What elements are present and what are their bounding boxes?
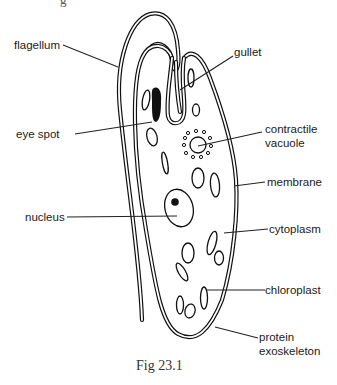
label-protein-exoskeleton-1: protein xyxy=(259,331,294,343)
euglena-diagram: g xyxy=(0,0,337,385)
label-contractile-vacuole-1: contractile xyxy=(265,123,317,135)
label-membrane: membrane xyxy=(267,176,322,188)
figure-caption: Fig 23.1 xyxy=(136,358,183,373)
label-protein-exoskeleton-2: exoskeleton xyxy=(259,345,320,357)
label-eye-spot: eye spot xyxy=(16,128,60,140)
nucleus-shape xyxy=(161,186,198,230)
eye-spot-shape xyxy=(152,88,161,122)
label-flagellum: flagellum xyxy=(14,39,60,51)
cell-body xyxy=(135,46,237,337)
flagellum-shape xyxy=(119,13,178,320)
label-chloroplast: chloroplast xyxy=(265,284,321,296)
top-text-fragment: g xyxy=(60,0,67,7)
gullet-shape xyxy=(167,58,184,123)
label-contractile-vacuole-2: vacuole xyxy=(265,137,305,149)
label-nucleus: nucleus xyxy=(25,211,65,223)
label-cytoplasm: cytoplasm xyxy=(269,223,321,235)
label-gullet: gullet xyxy=(234,46,262,58)
